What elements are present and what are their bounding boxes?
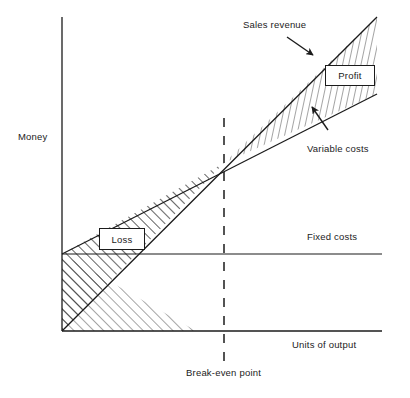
x-axis-label: Units of output [292, 339, 356, 350]
variable-costs-label: Variable costs [307, 143, 369, 154]
profit-region [224, 17, 377, 163]
break-even-chart-figure: Money Sales revenue Variable costs Fixed… [0, 0, 410, 398]
profit-region-label: Profit [325, 65, 375, 86]
loss-region-label: Loss [99, 228, 145, 250]
y-axis-label: Money [18, 131, 48, 142]
sales-revenue-label: Sales revenue [243, 19, 306, 30]
break-even-point-label: Break-even point [186, 367, 261, 378]
fixed-costs-label: Fixed costs [307, 231, 357, 242]
sales-revenue-arrow [287, 37, 313, 55]
